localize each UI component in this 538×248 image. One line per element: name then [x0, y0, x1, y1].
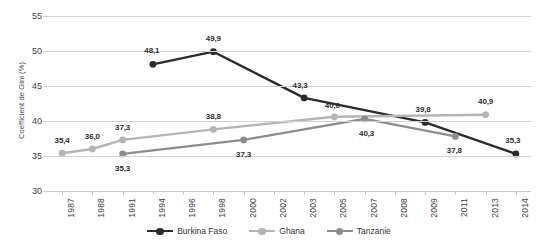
data-point[interactable]	[210, 126, 217, 133]
data-point-label: 37,8	[447, 146, 462, 155]
x-tick-mark	[455, 191, 456, 195]
data-point-label: 35,3	[505, 135, 520, 144]
gridline: 50	[47, 51, 531, 52]
data-point-label: 35,4	[55, 136, 70, 145]
x-tick-mark	[153, 191, 154, 195]
legend-marker-icon	[327, 227, 353, 236]
x-tick-mark	[425, 191, 426, 195]
y-tick-label: 40	[32, 116, 42, 126]
y-tick-mark	[43, 51, 47, 52]
data-point[interactable]	[240, 137, 247, 144]
x-axis-line	[47, 191, 531, 192]
x-tick-mark	[92, 191, 93, 195]
data-point-label: 39,8	[416, 105, 431, 114]
x-tick-mark	[62, 191, 63, 195]
x-tick-label: 2011	[459, 198, 469, 217]
legend-item-tanzanie[interactable]: Tanzanie	[327, 226, 391, 236]
y-tick-label: 35	[32, 151, 42, 161]
y-tick-label: 30	[32, 186, 42, 196]
gridline: 35	[47, 156, 531, 157]
data-point[interactable]	[482, 111, 489, 118]
data-point-label: 35,3	[115, 163, 130, 172]
legend-item-burkina-faso[interactable]: Burkina Faso	[147, 226, 227, 236]
data-point-label: 43,3	[293, 80, 308, 89]
x-tick-label: 2007	[369, 198, 379, 218]
gridline: 55	[47, 16, 531, 17]
data-point-label: 40,6	[325, 100, 340, 109]
x-tick-mark	[486, 191, 487, 195]
x-tick-label: 1988	[96, 198, 106, 218]
y-axis-title: Coefficient de Gini (%)	[17, 26, 26, 176]
x-tick-mark	[334, 191, 335, 195]
y-tick-mark	[43, 16, 47, 17]
data-point-label: 49,9	[206, 33, 221, 42]
data-point[interactable]	[452, 133, 459, 140]
x-tick-label: 1987	[66, 198, 76, 218]
x-tick-mark	[244, 191, 245, 195]
gini-coefficient-line-chart: Coefficient de Gini (%) 303540455055 Bur…	[0, 0, 538, 248]
data-point[interactable]	[301, 95, 308, 102]
y-tick-label: 50	[32, 46, 42, 56]
legend-marker-icon	[147, 227, 173, 236]
x-tick-mark	[183, 191, 184, 195]
y-tick-label: 55	[32, 11, 42, 21]
x-tick-mark	[395, 191, 396, 195]
x-tick-label: 2014	[520, 198, 530, 218]
x-tick-mark	[123, 191, 124, 195]
x-tick-label: 2013	[490, 198, 500, 218]
x-tick-label: 2009	[429, 198, 439, 218]
series-line	[123, 119, 456, 154]
data-point[interactable]	[89, 146, 96, 153]
legend-item-ghana[interactable]: Ghana	[249, 226, 305, 236]
x-tick-mark	[365, 191, 366, 195]
x-tick-label: 2003	[308, 198, 318, 218]
data-point-label: 36,0	[85, 132, 100, 141]
legend-label: Ghana	[279, 226, 305, 236]
data-point[interactable]	[149, 61, 156, 68]
data-point-label: 48,1	[144, 46, 159, 55]
y-tick-mark	[43, 156, 47, 157]
x-tick-mark	[516, 191, 517, 195]
x-tick-mark	[304, 191, 305, 195]
legend-label: Tanzanie	[357, 226, 391, 236]
x-tick-label: 1994	[157, 198, 167, 218]
legend-marker-icon	[249, 227, 275, 236]
data-point-label: 37,3	[115, 122, 130, 131]
data-point[interactable]	[331, 113, 338, 120]
x-tick-mark	[213, 191, 214, 195]
x-tick-label: 1998	[217, 198, 227, 218]
x-tick-label: 2000	[248, 198, 258, 218]
data-point-label: 40,3	[359, 128, 374, 137]
x-tick-label: 2005	[338, 198, 348, 218]
y-tick-mark	[43, 121, 47, 122]
x-tick-mark	[274, 191, 275, 195]
legend-label: Burkina Faso	[177, 226, 227, 236]
x-tick-label: 1991	[127, 198, 137, 218]
y-tick-mark	[43, 86, 47, 87]
data-point-label: 38,8	[206, 112, 221, 121]
data-point-label: 40,9	[478, 96, 493, 105]
x-tick-label: 1996	[187, 198, 197, 218]
x-tick-label: 2008	[399, 198, 409, 218]
gridline: 45	[47, 86, 531, 87]
y-tick-label: 45	[32, 81, 42, 91]
x-tick-label: 2002	[278, 198, 288, 218]
chart-legend: Burkina FasoGhanaTanzanie	[0, 226, 538, 236]
data-point-label: 37,3	[236, 149, 251, 158]
data-point[interactable]	[119, 137, 126, 144]
